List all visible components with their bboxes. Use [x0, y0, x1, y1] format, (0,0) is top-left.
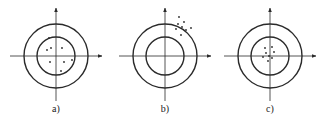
- shot-dot: [46, 49, 48, 51]
- shot-dot: [185, 29, 187, 31]
- shot-dot: [267, 60, 269, 62]
- panel-c: c): [224, 8, 316, 115]
- panel-label: b): [161, 103, 169, 115]
- shot-dot: [262, 56, 264, 58]
- panel-b: b): [119, 8, 211, 115]
- shot-dot: [178, 16, 180, 18]
- panel-label: c): [266, 103, 274, 115]
- shot-dot: [264, 47, 266, 49]
- shot-dot: [63, 61, 65, 63]
- shot-dot: [271, 46, 273, 48]
- shot-dot: [265, 52, 267, 54]
- shot-dot: [271, 57, 273, 59]
- shot-dot: [180, 34, 182, 36]
- shot-dot: [268, 55, 270, 57]
- panel-a: a): [10, 8, 102, 115]
- shot-dot: [175, 28, 177, 30]
- shot-dot: [273, 51, 275, 53]
- shot-dot: [177, 23, 179, 25]
- shot-dot: [48, 37, 50, 39]
- shot-dot: [190, 27, 192, 29]
- shot-dots: [262, 46, 275, 62]
- target-diagram: a) b) c): [0, 0, 323, 121]
- shot-dot: [49, 61, 51, 63]
- shot-dot: [71, 59, 73, 61]
- panel-label: a): [52, 103, 60, 115]
- shot-dot: [181, 26, 183, 28]
- shot-dot: [60, 70, 62, 72]
- shot-dot: [61, 47, 63, 49]
- shot-dot: [50, 47, 52, 49]
- shot-dot: [183, 21, 185, 23]
